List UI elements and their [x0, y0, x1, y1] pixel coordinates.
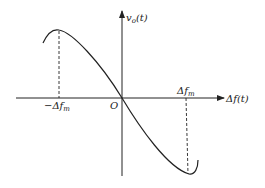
y-axis-label: vo(t)	[126, 12, 148, 25]
x-axis-label: Δf(t)	[225, 93, 249, 104]
tick-label-positive: Δfm	[176, 85, 195, 98]
dashed-guide-positive	[186, 98, 188, 174]
discriminator-curve	[43, 30, 198, 174]
origin-label: O	[110, 100, 118, 111]
diagram-figure: vo(t) Δf(t) O −Δfm Δfm	[0, 0, 265, 188]
tick-label-negative: −Δfm	[44, 100, 70, 113]
